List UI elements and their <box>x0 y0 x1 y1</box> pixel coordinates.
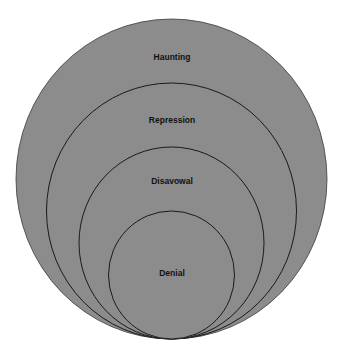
label-disavowal: Disavowal <box>151 176 193 186</box>
nested-circles-diagram: Haunting Repression Disavowal Denial <box>0 0 346 352</box>
label-repression: Repression <box>149 115 195 125</box>
label-denial: Denial <box>159 268 185 278</box>
label-haunting: Haunting <box>154 52 191 62</box>
